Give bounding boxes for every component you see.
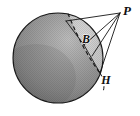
sphere-group [0,4,130,112]
label-point-p: P [123,3,132,18]
geometry-figure: P B H [0,0,140,116]
sphere-tangent-diagram: P B H [0,0,140,116]
label-point-h: H [100,73,111,87]
label-point-b: B [81,32,90,46]
